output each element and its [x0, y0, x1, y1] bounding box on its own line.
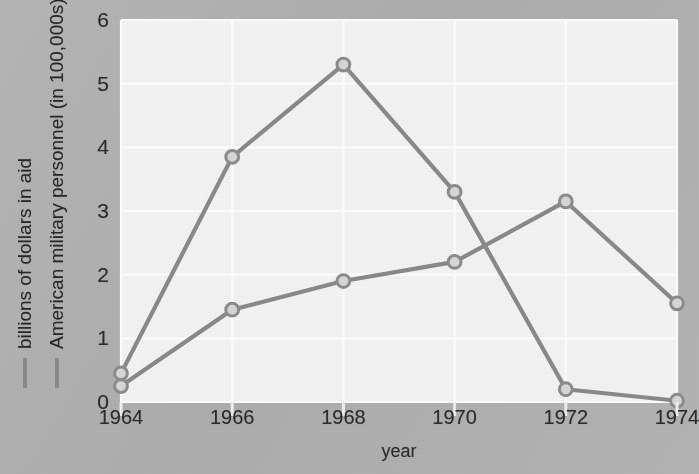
- x-axis-tick-label: 1972: [544, 406, 589, 429]
- legend-label: billions of dollars in aid: [14, 158, 36, 349]
- legend-label: American military personnel (in 100,000s…: [46, 0, 68, 349]
- x-axis-tick-label: 1968: [321, 406, 366, 429]
- legend-entry-aid: billions of dollars in aid: [14, 158, 36, 388]
- x-axis-tick-label: 1970: [432, 406, 477, 429]
- x-axis-tick-label: 1974: [655, 406, 699, 429]
- chart-legend: billions of dollars in aid American mili…: [0, 0, 100, 474]
- x-axis-title: year: [381, 441, 416, 462]
- x-axis-tick-label: 1966: [210, 406, 255, 429]
- legend-line-swatch-icon: [23, 358, 27, 388]
- legend-line-swatch-icon: [55, 358, 59, 388]
- legend-entry-military-personnel: American military personnel (in 100,000s…: [46, 0, 68, 388]
- x-axis-tick-labels: 196419661968197019721974: [0, 406, 698, 440]
- x-axis-tick-label: 1964: [99, 406, 144, 429]
